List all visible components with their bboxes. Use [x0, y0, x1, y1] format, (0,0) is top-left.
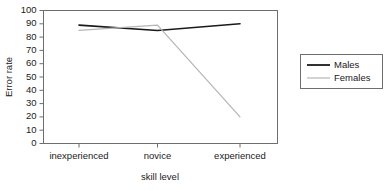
y-tick-label: 50	[26, 71, 37, 82]
y-tick-label: 90	[26, 17, 37, 28]
y-axis-tick-labels: 0102030405060708090100	[21, 4, 37, 148]
legend: MalesFemales	[301, 55, 383, 89]
x-axis-tick-labels: inexperiencednoviceexperienced	[49, 150, 265, 161]
y-tick-label: 30	[26, 97, 37, 108]
x-axis-title: skill level	[141, 171, 179, 182]
y-tick-label: 100	[21, 4, 37, 15]
x-tick-label: inexperienced	[49, 150, 108, 161]
y-tick-label: 0	[31, 137, 36, 148]
line-chart: 0102030405060708090100 inexperiencednovi…	[0, 0, 387, 190]
x-tick-label: novice	[144, 150, 171, 161]
x-tick-label: experienced	[214, 150, 266, 161]
y-tick-label: 70	[26, 44, 37, 55]
legend-label-females: Females	[334, 72, 371, 83]
x-axis-ticks	[79, 144, 240, 148]
y-axis-title: Error rate	[3, 57, 14, 97]
chart-canvas: 0102030405060708090100 inexperiencednovi…	[0, 0, 387, 190]
legend-label-males: Males	[334, 59, 360, 70]
y-axis-ticks	[40, 11, 44, 144]
y-tick-label: 40	[26, 84, 37, 95]
y-tick-label: 60	[26, 57, 37, 68]
y-tick-label: 10	[26, 124, 37, 135]
y-tick-label: 80	[26, 31, 37, 42]
y-tick-label: 20	[26, 110, 37, 121]
